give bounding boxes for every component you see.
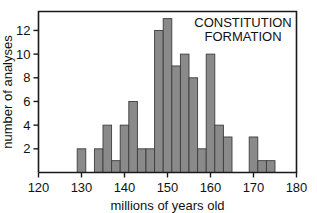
histogram-bar xyxy=(258,161,267,173)
y-axis-title: number of analyses xyxy=(0,35,15,149)
y-tick-label: 12 xyxy=(16,23,30,38)
histogram-bar xyxy=(249,137,258,173)
x-tick-label: 160 xyxy=(200,180,222,195)
histogram-bar xyxy=(198,149,207,173)
histogram-bar xyxy=(129,101,138,172)
histogram-bar xyxy=(120,125,129,172)
histogram-bar xyxy=(112,161,121,173)
chart-title-line-2: FORMATION xyxy=(204,29,281,44)
x-tick-label: 170 xyxy=(243,180,265,195)
chart-canvas: 120130140150160170180 24681012 millions … xyxy=(0,0,317,213)
y-axis-tick-labels: 24681012 xyxy=(16,23,30,156)
x-tick-label: 180 xyxy=(286,180,308,195)
histogram-bar xyxy=(155,30,164,172)
histogram-bar xyxy=(223,137,232,173)
x-tick-label: 120 xyxy=(28,180,50,195)
histogram-bar xyxy=(103,125,112,172)
histogram-bar xyxy=(189,78,198,173)
histogram-chart: 120130140150160170180 24681012 millions … xyxy=(0,0,317,213)
x-axis-title: millions of years old xyxy=(110,198,224,213)
histogram-bar xyxy=(172,66,181,173)
chart-title-line-1: CONSTITUTION xyxy=(194,15,292,30)
y-tick-label: 6 xyxy=(23,94,30,109)
histogram-bar xyxy=(146,149,155,173)
histogram-bar xyxy=(266,161,275,173)
x-tick-label: 130 xyxy=(71,180,93,195)
histogram-bar xyxy=(163,19,172,173)
histogram-bar xyxy=(137,149,146,173)
histogram-bar xyxy=(77,149,86,173)
histogram-bar xyxy=(215,125,224,172)
histogram-bar xyxy=(94,149,103,173)
y-tick-label: 8 xyxy=(23,70,30,85)
y-tick-label: 10 xyxy=(16,47,30,62)
x-tick-label: 140 xyxy=(114,180,136,195)
histogram-bar xyxy=(206,54,215,172)
x-axis-tick-labels: 120130140150160170180 xyxy=(28,180,308,195)
y-tick-label: 2 xyxy=(23,141,30,156)
histogram-bar xyxy=(180,54,189,172)
y-tick-label: 4 xyxy=(23,118,30,133)
x-tick-label: 150 xyxy=(157,180,179,195)
